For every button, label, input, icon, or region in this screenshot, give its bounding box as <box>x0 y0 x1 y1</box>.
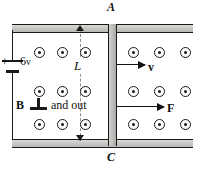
perpendicular-icon-base <box>30 107 47 110</box>
velocity-label: v <box>148 60 154 75</box>
point-label-a: A <box>107 0 115 15</box>
field-dot-icon-right-0-0 <box>128 47 139 58</box>
field-dot-icon-right-0-2 <box>180 47 191 58</box>
field-dot-icon-right-2-1 <box>154 119 165 130</box>
perpendicular-icon <box>30 98 47 111</box>
field-dot-icon-left-1-2 <box>80 86 91 97</box>
field-dot-icon-left-0-1 <box>57 47 68 58</box>
battery-plate-negative <box>6 70 19 73</box>
battery-voltage-unit: v <box>26 57 31 67</box>
field-dot-icon-left-0-2 <box>80 47 91 58</box>
field-dot-icon-right-1-1 <box>154 86 165 97</box>
field-dot-icon-left-1-0 <box>34 86 45 97</box>
length-label: L <box>72 58 83 74</box>
sliding-conductor-bar <box>108 24 117 146</box>
field-dot-icon-right-2-0 <box>128 119 139 130</box>
field-dot-icon-right-1-2 <box>180 86 191 97</box>
field-dot-icon-right-1-0 <box>128 86 139 97</box>
left-wire-lower <box>12 73 13 140</box>
battery-polarity-label: + <box>1 55 8 68</box>
field-dot-icon-left-2-2 <box>80 119 91 130</box>
force-label: F <box>167 101 174 116</box>
field-dot-icon-left-2-0 <box>34 119 45 130</box>
field-symbol-label: B <box>16 98 24 113</box>
dimension-arrow-top-icon <box>76 25 84 31</box>
velocity-arrow-icon <box>117 64 145 65</box>
field-dot-icon-right-0-1 <box>154 47 165 58</box>
field-dot-icon-left-1-1 <box>57 86 68 97</box>
dimension-arrow-bottom-icon <box>76 135 84 141</box>
field-dot-icon-left-2-1 <box>57 119 68 130</box>
rail-top <box>12 24 193 33</box>
field-direction-label: and out <box>51 98 87 113</box>
force-arrow-icon <box>117 106 164 107</box>
field-dot-icon-right-2-2 <box>180 119 191 130</box>
left-wire-upper <box>12 30 13 61</box>
physics-diagram: + 6v A C L v F B and out <box>0 0 205 172</box>
rail-bottom <box>12 139 193 148</box>
field-dot-icon-left-0-0 <box>34 47 45 58</box>
point-label-c: C <box>107 150 115 165</box>
battery-voltage-label: 6v <box>20 54 31 69</box>
